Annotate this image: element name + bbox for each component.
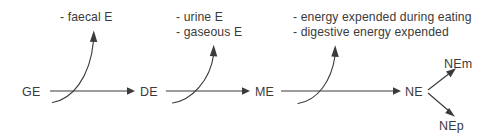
flow-arrow-de-to-me: [166, 87, 250, 95]
loss-text-faecal: - faecal E: [60, 10, 112, 24]
diagram-canvas: GE DE ME NE NEm NEp - faecal E - urine E…: [0, 0, 488, 139]
flow-arrow-me-to-ne: [281, 87, 401, 95]
arrowhead-de-to-me: [242, 87, 250, 95]
loss-text-urine: - urine E: [176, 10, 223, 24]
arrowhead-loss-urine-gaseous: [210, 45, 218, 57]
node-label-nep: NEp: [439, 119, 464, 133]
loss-arrow-faecal: [53, 31, 98, 103]
branch-arrow-ne-to-nep: [428, 93, 455, 117]
node-label-de: DE: [140, 85, 158, 99]
branch-arrow-ne-to-nem: [428, 68, 456, 90]
loss-text-gaseous: - gaseous E: [176, 25, 242, 39]
loss-text-eating-expenditure: - energy expended during eating: [293, 10, 472, 24]
energy-partitioning-diagram: GE DE ME NE NEm NEp - faecal E - urine E…: [0, 0, 488, 139]
loss-arrow-heat-increment: [298, 45, 339, 103]
loss-text-digestive-expenditure: - digestive energy expended: [293, 25, 449, 39]
arrowhead-loss-faecal: [90, 31, 97, 43]
flow-arrow-ge-to-de: [50, 87, 135, 95]
node-label-ge: GE: [22, 85, 40, 99]
arrowhead-me-to-ne: [393, 87, 401, 95]
arrowhead-loss-heat-increment: [331, 45, 339, 57]
arrowhead-ge-to-de: [127, 87, 135, 95]
node-label-me: ME: [255, 85, 274, 99]
node-label-ne: NE: [405, 85, 423, 99]
loss-arrow-urine-gaseous: [173, 45, 218, 103]
node-label-nem: NEm: [444, 57, 472, 71]
